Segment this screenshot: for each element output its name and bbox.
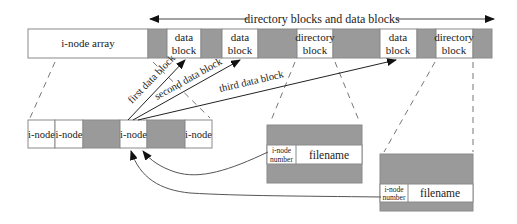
unused-block [148, 29, 167, 58]
filename-label: filename [420, 187, 460, 199]
block-label: block [442, 44, 467, 56]
inode-number-label: number [270, 155, 293, 164]
unused-block [201, 29, 222, 58]
block-label: directory [295, 31, 335, 43]
block-label: block [228, 44, 253, 56]
block-label: block [172, 44, 197, 56]
dir1-to-inode-arrow [143, 151, 268, 175]
third-block-label: third data block [218, 68, 285, 94]
block-label: directory [434, 31, 474, 43]
inode-labels: i-node i-node i-node i-node [28, 129, 212, 140]
unused-inode [83, 120, 120, 148]
inode-number-label: number [383, 193, 406, 202]
inode-label: i-node [185, 129, 212, 140]
unused-block [473, 29, 492, 58]
directory-entry-2 [380, 154, 473, 211]
filename-label: filename [309, 149, 349, 161]
block-label: data [389, 31, 407, 43]
inode-array-label: i-node array [61, 37, 115, 49]
block-label: data [175, 31, 193, 43]
block-label: data [231, 31, 249, 43]
block-label: block [386, 44, 411, 56]
unused-block [333, 29, 380, 58]
filesystem-diagram: directory blocks and data blocks i-node … [0, 0, 517, 224]
inode-label: i-node [120, 129, 147, 140]
inode-label: i-node [28, 129, 55, 140]
block-label: block [303, 44, 328, 56]
unused-block [258, 29, 297, 58]
range-arrow: directory blocks and data blocks [150, 12, 494, 26]
unused-block [417, 29, 436, 58]
inode-label: i-node [56, 129, 83, 140]
range-arrow-label: directory blocks and data blocks [244, 12, 400, 26]
unused-inode [147, 120, 185, 148]
